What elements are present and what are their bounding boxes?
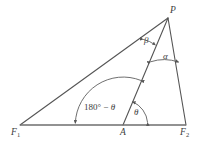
vertex-label-F2-letter: F	[180, 127, 186, 137]
vertex-label-A: A	[120, 128, 126, 138]
vertex-label-F1: F1	[11, 128, 20, 138]
angle-label-supplementary-prefix: 180° −	[84, 102, 111, 112]
angle-label-supplementary: 180° − θ	[84, 103, 115, 112]
vertex-label-F1-letter: F	[11, 127, 17, 137]
angle-label-supplementary-symbol: θ	[111, 102, 115, 112]
angle-arc-supplementary	[75, 77, 141, 123]
vertex-label-F2-subscript: 2	[186, 131, 189, 138]
angle-label-theta: θ	[134, 108, 138, 117]
geometry-figure: P F1 A F2 α β θ 180° − θ	[0, 0, 200, 150]
angle-label-beta: β	[144, 36, 148, 45]
vertex-label-F1-subscript: 1	[17, 131, 20, 138]
angle-label-alpha: α	[163, 52, 168, 61]
vertex-label-F2: F2	[180, 128, 189, 138]
segment-P-F2	[168, 18, 186, 125]
vertex-label-P: P	[170, 6, 176, 16]
figure-canvas	[0, 0, 200, 150]
